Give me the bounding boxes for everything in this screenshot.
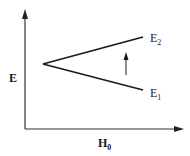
x-axis-label: H0 <box>98 136 111 152</box>
x-axis <box>25 126 184 132</box>
diagram-svg: E H0 E2 E1 <box>0 0 190 156</box>
y-axis-arrowhead-icon <box>22 9 28 19</box>
lower-level-line <box>43 64 143 90</box>
transition-arrow-icon <box>124 52 129 75</box>
zeeman-diagram: E H0 E2 E1 <box>0 0 190 156</box>
y-axis-label: E <box>9 71 17 85</box>
x-axis-arrowhead-icon <box>174 126 184 132</box>
y-axis <box>22 9 28 129</box>
lower-level-label: E1 <box>150 86 161 102</box>
upper-level-label: E2 <box>150 31 161 47</box>
